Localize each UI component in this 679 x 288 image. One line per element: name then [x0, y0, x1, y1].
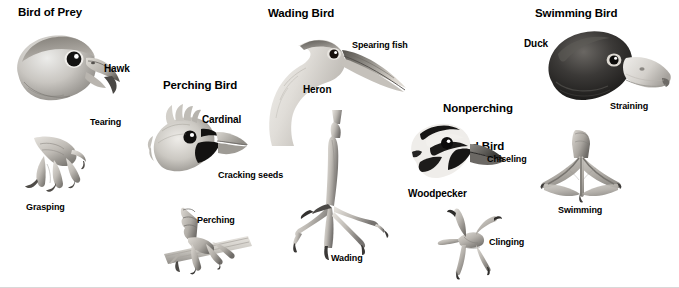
- label-cracking-seeds: Cracking seeds: [218, 170, 283, 180]
- woodpecker-head-illustration: [404, 116, 508, 186]
- wading-foot-illustration: [288, 110, 400, 262]
- hawk-talon-illustration: [14, 132, 90, 198]
- label-cardinal: Cardinal: [202, 114, 241, 125]
- label-duck: Duck: [524, 38, 548, 49]
- duck-head-illustration: [538, 28, 674, 120]
- heading-nonperching-line1: Nonperching: [443, 102, 513, 115]
- label-woodpecker: Woodpecker: [408, 188, 467, 199]
- label-wading: Wading: [331, 253, 363, 263]
- heading-perching-bird: Perching Bird: [163, 79, 237, 92]
- bird-adaptations-figure: Bird of Prey: [0, 0, 679, 288]
- heading-swimming-bird: Swimming Bird: [535, 7, 617, 20]
- label-straining: Straining: [610, 101, 648, 111]
- perching-foot-illustration: [162, 202, 258, 278]
- label-grasping: Grasping: [26, 202, 65, 212]
- label-swimming: Swimming: [558, 205, 602, 215]
- label-perching: Perching: [197, 215, 235, 225]
- label-heron: Heron: [303, 84, 331, 95]
- label-hawk: Hawk: [104, 63, 130, 74]
- heading-bird-of-prey: Bird of Prey: [18, 6, 82, 19]
- swimming-foot-illustration: [536, 128, 630, 204]
- label-clinging: Clinging: [489, 237, 524, 247]
- label-chiseling: Chiseling: [487, 154, 527, 164]
- heading-wading-bird: Wading Bird: [268, 7, 334, 20]
- label-tearing: Tearing: [90, 117, 121, 127]
- label-spearing-fish: Spearing fish: [352, 40, 408, 50]
